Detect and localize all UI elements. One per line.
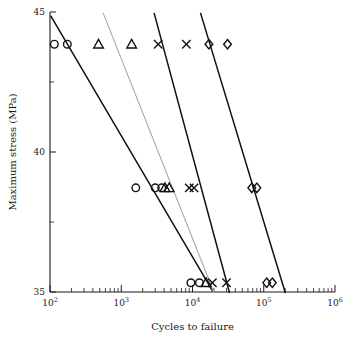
y-tick-label: 45 [34,7,46,17]
diamond-marker [268,278,276,287]
y-tick-label: 40 [34,147,46,157]
trendline-1 [51,16,212,290]
sn-fatigue-chart: 454035102103104105106Cycles to failureMa… [0,0,354,338]
trendline-3 [154,13,229,292]
trendline-2 [103,13,214,292]
triangle-marker [94,39,104,48]
x-tick-label: 106 [327,296,343,308]
triangle-marker [127,39,137,48]
x-tick-label: 103 [113,296,129,308]
circle-marker [51,40,59,48]
diamond-marker [224,40,232,49]
x-tick-label: 105 [256,296,272,308]
chart-canvas: 454035102103104105106Cycles to failureMa… [0,0,354,338]
y-axis-title: Maximum stress (MPa) [7,93,18,210]
x-axis-title: Cycles to failure [151,321,234,332]
trendline-4 [201,13,286,292]
y-tick-label: 35 [34,287,46,297]
x-tick-label: 104 [185,296,201,308]
circle-marker [132,184,140,192]
x-tick-label: 102 [42,296,58,308]
circle-marker [187,279,195,287]
